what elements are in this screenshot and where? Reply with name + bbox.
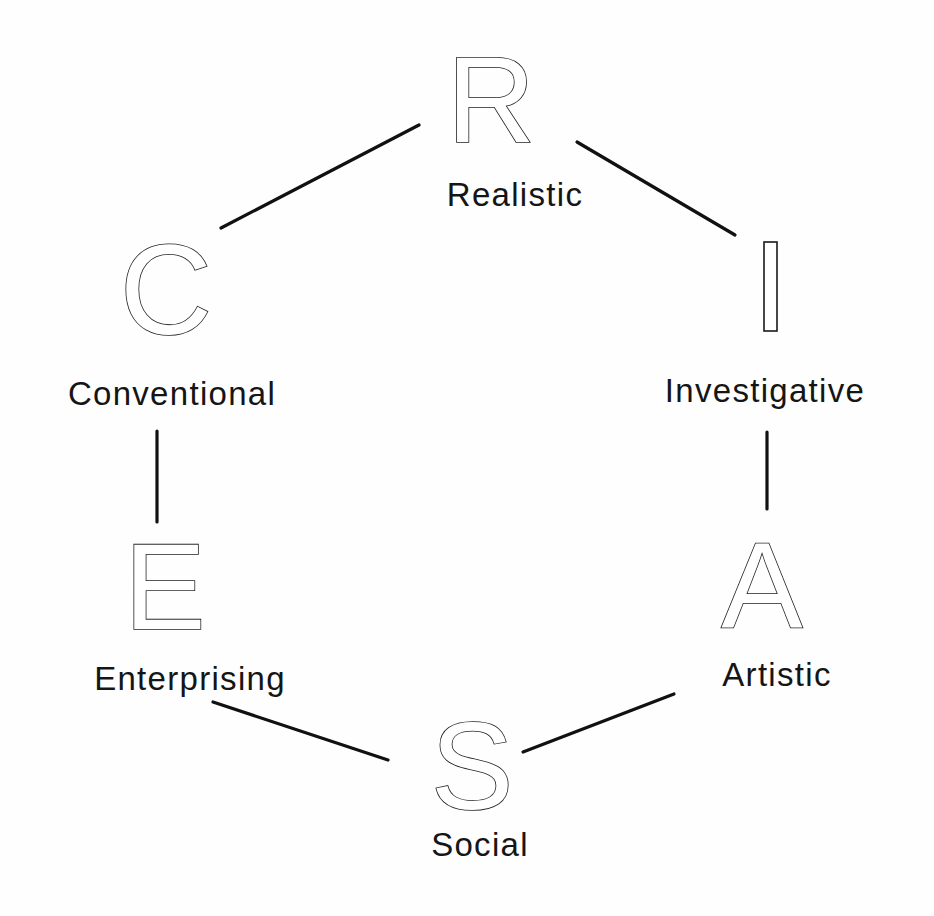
node-artistic: A Artistic <box>721 518 831 693</box>
label-artistic: Artistic <box>722 656 831 693</box>
edge-r-i <box>577 142 735 235</box>
letter-e-glyph: E <box>124 519 205 655</box>
letter-r-glyph: R <box>447 32 535 168</box>
node-investigative: Investigative <box>665 242 865 409</box>
label-conventional: Conventional <box>68 375 276 412</box>
label-enterprising: Enterprising <box>94 660 286 697</box>
diagram-canvas: R Realistic Investigative A Artistic S S… <box>0 0 934 916</box>
node-realistic: R Realistic <box>447 32 583 213</box>
label-investigative: Investigative <box>665 372 865 409</box>
node-social: S Social <box>431 697 529 863</box>
letter-i-glyph <box>764 242 777 331</box>
letter-c-glyph: C <box>120 218 212 361</box>
edge-c-r <box>221 125 419 228</box>
letter-s-glyph: S <box>431 697 514 835</box>
node-enterprising: E Enterprising <box>94 519 286 697</box>
label-realistic: Realistic <box>447 176 583 213</box>
edge-a-s <box>523 694 674 752</box>
edge-s-e <box>213 702 388 760</box>
riasec-diagram: R Realistic Investigative A Artistic S S… <box>0 0 934 916</box>
label-social: Social <box>431 826 529 863</box>
letter-a-glyph: A <box>721 518 803 654</box>
node-conventional: C Conventional <box>68 218 276 412</box>
